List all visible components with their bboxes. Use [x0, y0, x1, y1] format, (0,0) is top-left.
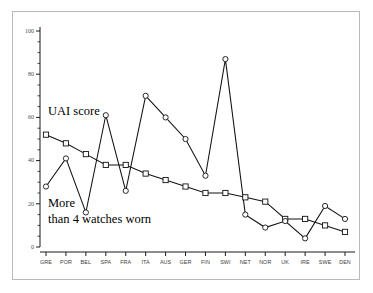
annotation-uai-score: UAI score	[48, 104, 100, 119]
data-point-square	[163, 177, 168, 182]
x-tick-label: BEL	[81, 259, 92, 265]
y-tick-label: 20	[28, 201, 34, 207]
data-point-square	[223, 190, 228, 195]
x-tick-label: DEN	[339, 259, 351, 265]
data-point-circle	[223, 56, 228, 61]
data-point-square	[83, 152, 88, 157]
annotation-watches-line1: More	[48, 196, 75, 211]
data-point-square	[143, 171, 148, 176]
x-tick-label: FRA	[120, 259, 131, 265]
data-point-circle	[123, 188, 128, 193]
x-tick-label: NOR	[259, 259, 271, 265]
y-tick-label: 60	[28, 114, 34, 120]
x-tick-label: AUS	[160, 259, 172, 265]
data-point-square	[203, 190, 208, 195]
y-tick-label: 40	[28, 157, 34, 163]
x-tick-label: GRE	[40, 259, 52, 265]
data-point-circle	[322, 203, 327, 208]
data-point-circle	[163, 115, 168, 120]
chart-figure: 020406080100GREPORBELSPAFRAITAAUSGERFINS…	[0, 0, 373, 293]
x-tick-label: GER	[180, 259, 192, 265]
x-tick-label: SPA	[100, 259, 111, 265]
data-point-circle	[283, 218, 288, 223]
data-point-circle	[43, 184, 48, 189]
line-chart: 020406080100GREPORBELSPAFRAITAAUSGERFINS…	[0, 0, 373, 293]
y-tick-label: 0	[31, 244, 34, 250]
x-tick-label: IRE	[300, 259, 310, 265]
data-point-square	[303, 216, 308, 221]
x-tick-label: POR	[60, 259, 72, 265]
x-tick-label: ITA	[142, 259, 151, 265]
data-point-circle	[103, 113, 108, 118]
data-point-square	[103, 162, 108, 167]
y-tick-label: 80	[28, 71, 34, 77]
data-point-circle	[303, 236, 308, 241]
data-point-circle	[243, 212, 248, 217]
x-tick-label: FIN	[201, 259, 210, 265]
data-point-circle	[263, 225, 268, 230]
x-tick-label: SWE	[319, 259, 332, 265]
data-point-square	[263, 199, 268, 204]
data-point-circle	[342, 216, 347, 221]
data-point-circle	[203, 173, 208, 178]
data-point-square	[342, 229, 347, 234]
x-tick-label: SWI	[220, 259, 230, 265]
data-point-square	[183, 184, 188, 189]
x-tick-label: NET	[240, 259, 252, 265]
data-point-square	[243, 195, 248, 200]
data-point-circle	[183, 136, 188, 141]
x-tick-label: UK	[281, 259, 289, 265]
data-point-square	[123, 162, 128, 167]
data-point-square	[43, 132, 48, 137]
data-point-square	[63, 141, 68, 146]
data-point-circle	[63, 156, 68, 161]
data-point-circle	[143, 93, 148, 98]
annotation-watches-line2: than 4 watches worn	[48, 212, 151, 227]
data-point-square	[322, 223, 327, 228]
y-tick-label: 100	[25, 28, 34, 34]
